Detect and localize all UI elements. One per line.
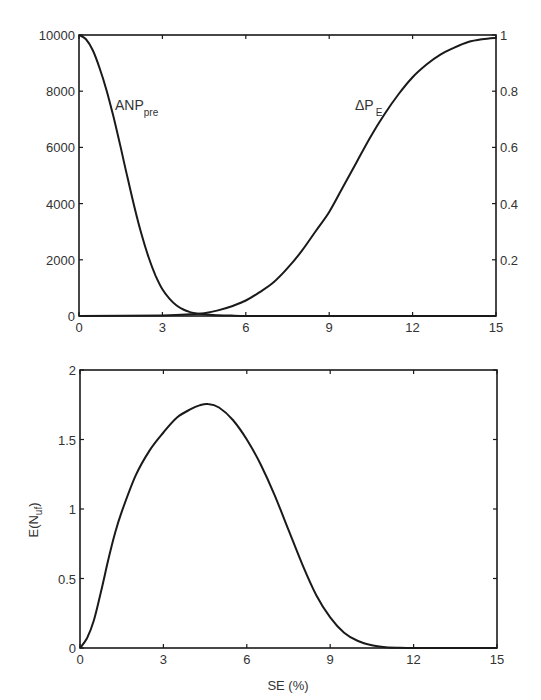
delta-pe-label: ΔPE	[355, 97, 383, 118]
y-tick-label: 2	[69, 363, 76, 378]
y-tick-label: 0	[68, 309, 75, 324]
y-tick-label: 1	[69, 502, 76, 517]
y2-tick-label: 1	[500, 28, 507, 43]
x-tick-label: 15	[490, 652, 504, 667]
y2-tick-label: 0.8	[500, 84, 518, 99]
y-tick-label: 2000	[46, 253, 75, 268]
y-tick-label: 1.5	[58, 433, 76, 448]
x-tick-label: 3	[159, 320, 166, 335]
chart-canvas: 03691215 0200040006000800010000 0.20.40.…	[0, 0, 541, 700]
x-tick-label: 0	[75, 320, 82, 335]
top-plot: 03691215 0200040006000800010000 0.20.40.…	[39, 28, 518, 335]
x-tick-label: 9	[327, 652, 334, 667]
x-tick-label: 12	[406, 652, 420, 667]
bottom-x-axis-ticks: 03691215	[76, 370, 504, 667]
bottom-plot: 03691215 00.511.52 SE (%) E(Nuf)	[26, 363, 504, 693]
anp-pre-curve	[79, 35, 496, 316]
top-plot-frame	[79, 35, 496, 316]
bottom-y-axis-ticks: 00.511.52	[58, 363, 497, 656]
top-x-axis-ticks: 03691215	[75, 35, 503, 335]
x-tick-label: 3	[160, 652, 167, 667]
x-axis-title: SE (%)	[267, 678, 308, 693]
x-tick-label: 6	[243, 652, 250, 667]
x-tick-label: 9	[326, 320, 333, 335]
anp-pre-label: ANPpre	[115, 97, 159, 118]
y-tick-label: 8000	[46, 84, 75, 99]
bottom-plot-frame	[80, 370, 497, 648]
x-tick-label: 6	[242, 320, 249, 335]
top-left-y-axis-ticks: 0200040006000800010000	[39, 28, 83, 324]
delta-pe-curve	[79, 38, 496, 316]
y-tick-label: 0.5	[58, 572, 76, 587]
y-axis-title: E(Nuf)	[26, 502, 44, 537]
e-nuf-curve	[80, 404, 497, 648]
y2-tick-label: 0.4	[500, 197, 518, 212]
x-tick-label: 0	[76, 652, 83, 667]
y-tick-label: 10000	[39, 28, 75, 43]
y-tick-label: 0	[69, 641, 76, 656]
y-tick-label: 6000	[46, 140, 75, 155]
x-tick-label: 15	[489, 320, 503, 335]
y2-tick-label: 0.2	[500, 253, 518, 268]
x-tick-label: 12	[405, 320, 419, 335]
y-tick-label: 4000	[46, 197, 75, 212]
y2-tick-label: 0.6	[500, 140, 518, 155]
